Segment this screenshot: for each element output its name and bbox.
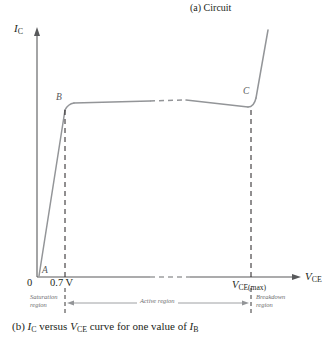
curve-saturation-segment: [39, 110, 65, 276]
region-label-breakdown-line1: Breakdown: [256, 293, 285, 301]
caption-b: (b) IC versus VCE curve for one value of…: [12, 320, 199, 334]
caption-b-mid1: versus: [37, 320, 71, 332]
curve-active-dashed-break: [150, 100, 186, 101]
active-region-arrow-right: [242, 301, 249, 306]
y-axis-arrowhead: [34, 27, 40, 36]
region-label-saturation: Saturation region: [30, 293, 57, 308]
tick-label-breakdown-voltage: VCE(max): [232, 279, 266, 292]
curve-knee-b: [65, 103, 74, 110]
caption-b-ib-sub: B: [193, 325, 198, 334]
y-axis-label: IC: [14, 22, 23, 36]
active-region-arrow-left: [67, 301, 74, 306]
x-axis-label-subscript: CE: [312, 275, 322, 284]
x-axis-label-symbol: V: [305, 270, 312, 282]
region-label-saturation-line1: Saturation: [30, 293, 57, 301]
curve-knee-c: [248, 98, 256, 107]
region-label-breakdown-line2: region: [256, 301, 285, 309]
region-label-active-text: Active region: [140, 297, 175, 304]
point-label-a: A: [42, 265, 48, 275]
tick-label-knee-voltage: 0.7 V: [50, 277, 73, 288]
region-label-saturation-line2: region: [30, 301, 57, 309]
caption-b-vce: V: [70, 320, 77, 332]
figure-ic-vce-curve: (a) Circuit IC: [0, 0, 333, 339]
plot-canvas: [0, 0, 333, 339]
point-label-c: C: [243, 86, 249, 96]
curve-active-segment-right: [186, 100, 248, 107]
curve-active-segment-left: [74, 101, 150, 103]
caption-b-lead: (b): [12, 320, 28, 332]
caption-b-mid2: curve for one value of: [87, 320, 190, 332]
region-label-breakdown: Breakdown region: [256, 293, 285, 308]
curve-breakdown-segment: [256, 30, 268, 98]
x-axis-arrowhead: [292, 274, 301, 280]
tick-label-breakdown-subscript: CE(max): [238, 283, 266, 292]
y-axis-label-subscript: C: [18, 27, 23, 36]
region-label-active: Active region: [137, 297, 178, 305]
caption-b-vce-sub: CE: [77, 325, 87, 334]
point-label-b: B: [56, 92, 62, 102]
x-axis-label: VCE: [305, 270, 322, 284]
origin-label: 0: [27, 277, 32, 288]
